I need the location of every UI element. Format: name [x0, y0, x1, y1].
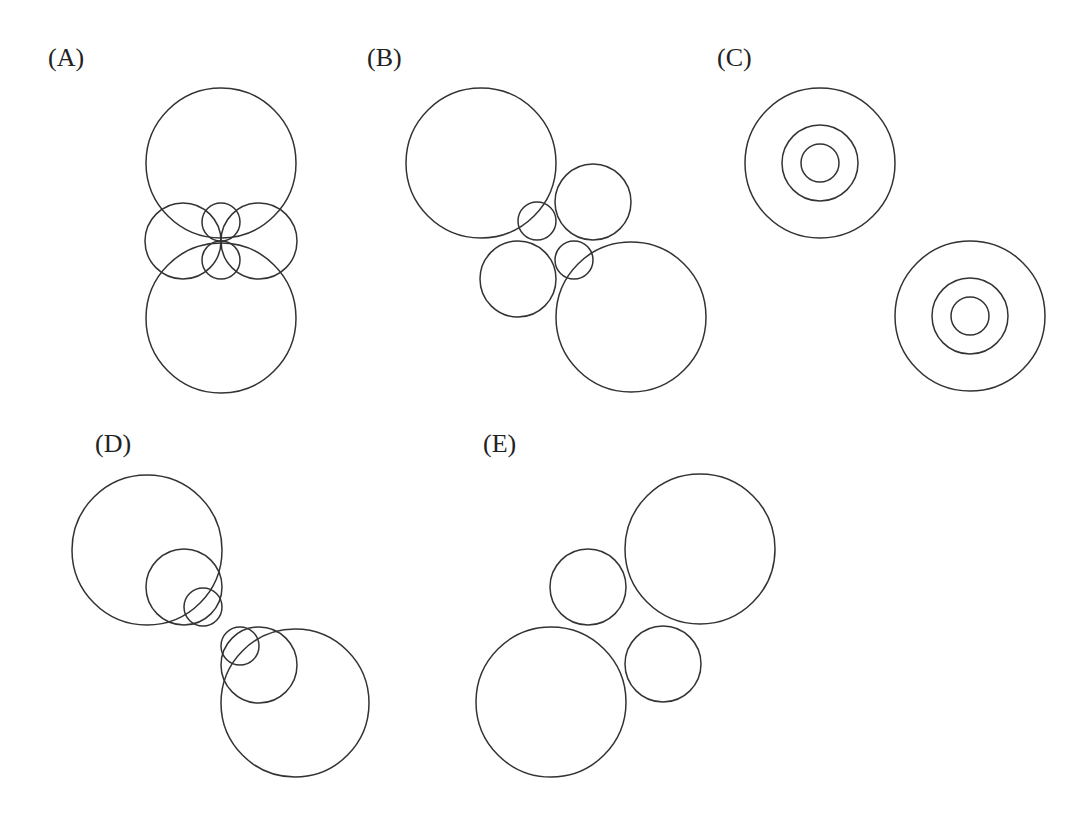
panel-e-label: (E) [483, 429, 516, 458]
circle-a-3 [145, 203, 221, 279]
panel-b-label: (B) [367, 43, 402, 72]
circle-a-4 [221, 203, 297, 279]
panel-d: (D) [72, 429, 369, 777]
panel-d-label: (D) [95, 429, 131, 458]
panel-b: (B) [367, 43, 706, 392]
panel-d-circles [72, 475, 369, 777]
panel-e: (E) [476, 429, 775, 777]
circle-b-3 [555, 164, 631, 240]
circle-c-4 [895, 241, 1045, 391]
circle-d-1 [72, 475, 222, 625]
circle-b-6 [555, 241, 593, 279]
circle-e-2 [476, 627, 626, 777]
circle-c-1 [745, 88, 895, 238]
circle-a-2 [146, 243, 296, 393]
circle-c-6 [951, 297, 989, 335]
circle-c-3 [801, 144, 839, 182]
circle-a-1 [146, 88, 296, 238]
circle-c-5 [932, 278, 1008, 354]
circle-e-4 [625, 626, 701, 702]
panel-e-circles [476, 474, 775, 777]
circle-e-3 [550, 549, 626, 625]
panel-c-circles [745, 88, 1045, 391]
panel-a-circles [145, 88, 297, 393]
panel-b-circles [406, 88, 706, 392]
circle-d-2 [146, 549, 222, 625]
circle-c-2 [782, 125, 858, 201]
circle-b-2 [556, 242, 706, 392]
figure-canvas: (A) (B) (C) (D) (E) [0, 0, 1087, 825]
panel-c-label: (C) [717, 43, 752, 72]
panel-c: (C) [717, 43, 1045, 391]
circle-b-5 [518, 202, 556, 240]
panel-a: (A) [48, 43, 297, 393]
circle-e-1 [625, 474, 775, 624]
panel-a-label: (A) [48, 43, 84, 72]
circle-b-1 [406, 88, 556, 238]
circle-b-4 [480, 241, 556, 317]
